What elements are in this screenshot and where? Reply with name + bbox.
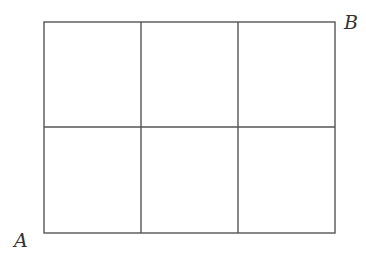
point-a-label: A	[12, 229, 28, 251]
point-b-label: B	[343, 11, 358, 33]
grid-diagram: A B	[0, 0, 366, 261]
grid	[44, 22, 335, 233]
